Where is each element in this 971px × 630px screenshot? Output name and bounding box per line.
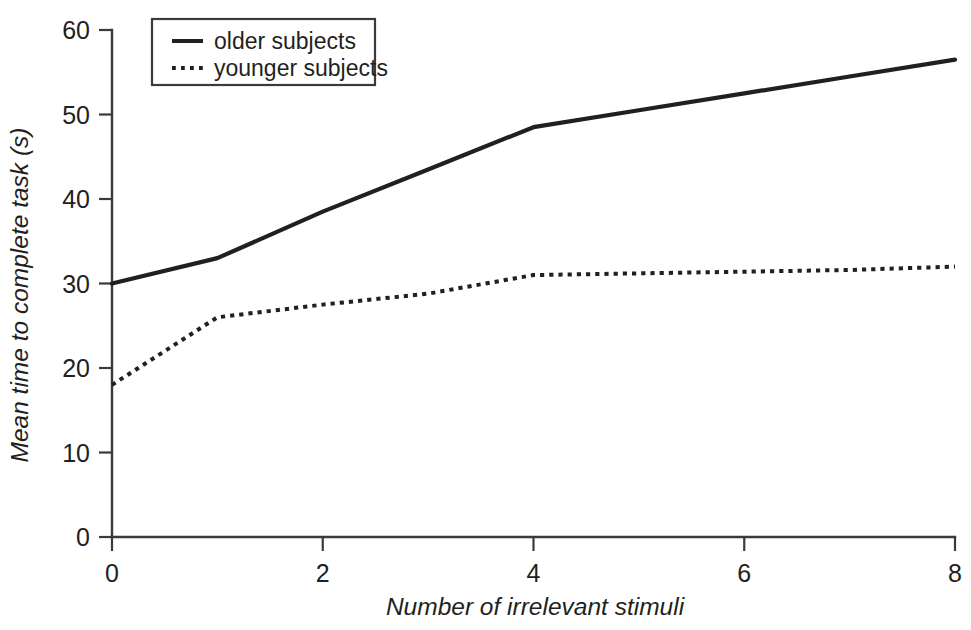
x-tick-label: 8: [948, 559, 962, 587]
series-younger-subjects-line: [112, 267, 955, 385]
y-tick-label: 0: [76, 523, 90, 551]
line-chart-canvas: 0102030405060 02468 older subjects young…: [0, 0, 971, 630]
y-tick-label: 50: [62, 101, 90, 129]
legend-label-older-subjects: older subjects: [214, 28, 356, 54]
series-older-subjects-line: [112, 60, 955, 284]
y-tick-label: 60: [62, 16, 90, 44]
chart-figure: 0102030405060 02468 older subjects young…: [0, 0, 971, 630]
x-tick-label: 2: [316, 559, 330, 587]
plot-series-group: [112, 60, 955, 385]
y-axis-title: Mean time to complete task (s): [6, 128, 33, 463]
x-axis: 02468: [105, 537, 962, 587]
y-tick-label: 10: [62, 439, 90, 467]
x-tick-label: 0: [105, 559, 119, 587]
y-tick-group: 0102030405060: [62, 16, 112, 551]
x-tick-label: 6: [737, 559, 751, 587]
y-tick-label: 30: [62, 270, 90, 298]
y-axis: 0102030405060: [62, 16, 112, 551]
x-tick-group: 02468: [105, 537, 962, 587]
y-tick-label: 40: [62, 185, 90, 213]
x-axis-title: Number of irrelevant stimuli: [386, 593, 685, 620]
legend-label-younger-subjects: younger subjects: [214, 55, 388, 81]
legend: older subjects younger subjects: [152, 19, 388, 85]
x-tick-label: 4: [527, 559, 541, 587]
y-tick-label: 20: [62, 354, 90, 382]
